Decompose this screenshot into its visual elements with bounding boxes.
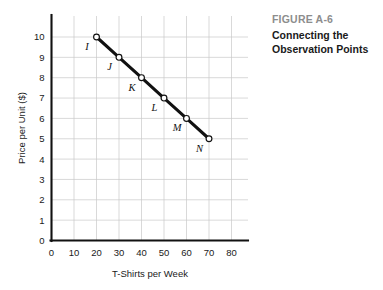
data-point-L (161, 95, 167, 101)
x-tick-label-50: 50 (159, 247, 170, 258)
x-tick-label-30: 30 (114, 247, 125, 258)
y-tick-label-9: 9 (39, 52, 44, 63)
y-tick-label-3: 3 (39, 174, 44, 185)
figure-title-line-2: Observation Points (272, 43, 380, 57)
point-label-J: J (107, 61, 113, 72)
data-point-J (116, 54, 122, 60)
chart-plot-area: 012345678910 01020304050607080 IJKLMN Pr… (0, 0, 260, 290)
x-tick-label-60: 60 (181, 247, 192, 258)
data-point-M (184, 116, 190, 122)
point-label-N: N (195, 143, 204, 154)
x-tick-label-80: 80 (226, 247, 237, 258)
x-tick-label-20: 20 (91, 247, 102, 258)
y-tick-label-0: 0 (39, 235, 44, 246)
data-point-K (139, 75, 145, 81)
data-point-I (94, 34, 100, 40)
y-tick-label-7: 7 (39, 92, 44, 103)
data-series-line (97, 37, 210, 139)
x-axis-tick-labels: 01020304050607080 (49, 247, 237, 258)
y-tick-label-5: 5 (39, 133, 44, 144)
x-tick-label-10: 10 (69, 247, 80, 258)
x-axis-title: T-Shirts per Week (112, 268, 188, 279)
figure-number: FIGURE A-6 (272, 13, 380, 26)
x-tick-label-40: 40 (136, 247, 147, 258)
y-tick-label-8: 8 (39, 72, 44, 83)
y-axis-title: Price per Unit ($) (16, 92, 27, 164)
figure-title-line-1: Connecting the (272, 29, 380, 43)
figure-caption-block: FIGURE A-6 Connecting the Observation Po… (272, 13, 380, 56)
point-label-M: M (172, 122, 183, 133)
y-tick-label-2: 2 (39, 194, 44, 205)
y-tick-label-6: 6 (39, 113, 44, 124)
x-tick-label-70: 70 (204, 247, 215, 258)
y-tick-label-1: 1 (39, 215, 44, 226)
horizontal-gridlines (52, 37, 249, 220)
y-axis-tick-labels: 012345678910 (34, 31, 45, 246)
point-label-K: K (127, 82, 136, 93)
point-label-L: L (151, 102, 158, 113)
axis-lines (51, 15, 249, 241)
y-tick-label-10: 10 (34, 31, 45, 42)
data-point-N (206, 136, 212, 142)
y-tick-label-4: 4 (39, 154, 44, 165)
line-chart: 012345678910 01020304050607080 IJKLMN Pr… (0, 0, 260, 290)
x-tick-label-0: 0 (49, 247, 54, 258)
vertical-gridlines (74, 16, 232, 241)
data-point-labels: IJKLMN (84, 41, 204, 154)
point-label-I: I (84, 41, 89, 52)
figure-title: Connecting the Observation Points (272, 29, 380, 56)
